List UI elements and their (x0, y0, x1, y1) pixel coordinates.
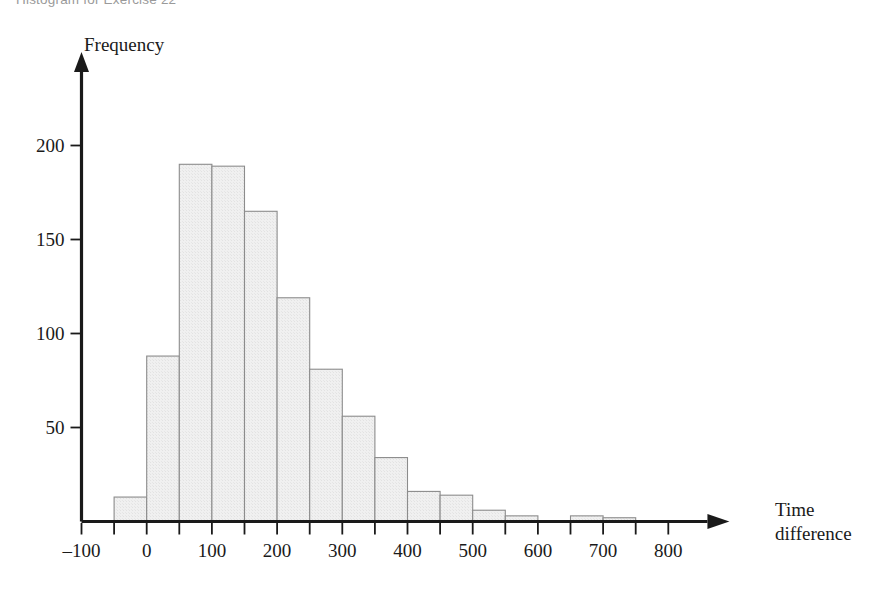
x-axis-arrow (707, 514, 729, 529)
x-tick-label: –100 (63, 540, 101, 562)
histogram-chart (0, 0, 889, 590)
x-tick-label: 300 (328, 540, 357, 562)
x-tick-label: 700 (589, 540, 618, 562)
histogram-bar (114, 497, 147, 521)
histogram-bar (245, 211, 278, 521)
x-tick-label: 500 (458, 540, 487, 562)
y-tick-label: 150 (36, 229, 65, 251)
histogram-bar (440, 495, 473, 521)
y-axis-title: Frequency (84, 34, 164, 56)
x-axis-title-line-2: difference (775, 522, 852, 546)
bar-group (114, 164, 636, 521)
chart-canvas (0, 0, 889, 590)
x-tick-label: 600 (524, 540, 553, 562)
x-tick-label: 200 (263, 540, 292, 562)
histogram-bar (147, 356, 180, 521)
x-tick-label: 0 (142, 540, 152, 562)
x-axis-title-line-1: Time (775, 498, 852, 522)
histogram-bar (375, 458, 408, 522)
histogram-bar (408, 491, 441, 521)
x-axis-title: Time difference (775, 498, 852, 546)
x-tick-label: 400 (393, 540, 422, 562)
histogram-bar (310, 369, 343, 521)
histogram-bar (342, 416, 375, 521)
x-tick-label: 800 (654, 540, 683, 562)
y-tick-label: 50 (46, 417, 65, 439)
y-tick-label: 100 (36, 323, 65, 345)
y-tick-label: 200 (36, 135, 65, 157)
histogram-bar (277, 298, 310, 522)
histogram-bar (473, 510, 506, 521)
histogram-bar (212, 166, 245, 521)
x-tick-label: 100 (198, 540, 227, 562)
histogram-bar (179, 164, 212, 521)
